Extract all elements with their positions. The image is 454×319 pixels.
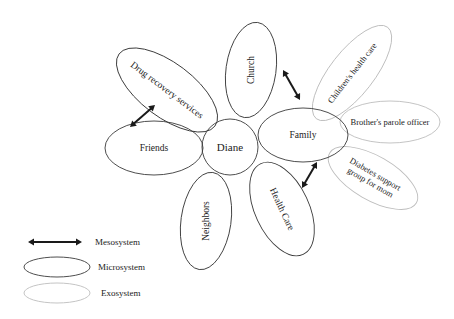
microsystem-label: Health Care [268,186,296,232]
microsystem-label: Church [246,56,256,84]
legend-microsystem: Microsystem [24,257,145,277]
exosystem-diabetes-support-group: Diabetes supportgroup for mom [319,134,428,222]
center-node: Diane [202,119,258,175]
microsystem-label: Friends [140,143,169,153]
mesosystem-arrow-church-to-family [283,70,300,100]
microsystem-church: Church [220,19,283,121]
legend-arrow-shape [28,239,82,246]
microsystem-neighbors: Neighbors [174,169,237,273]
microsystem-label: Drug recovery services [129,59,206,120]
exosystem-childrens-health-care: Children's health care [299,14,405,132]
mesosystem-arrow-family-to-health-care [302,162,317,188]
legend-mesosystem-label: Mesosystem [95,237,140,247]
exosystem-brothers-parole-officer: Brother's parole officer [340,101,440,143]
center-label: Diane [217,141,243,153]
legend-microsystem-label: Microsystem [98,262,145,272]
microsystem-friends: Friends [105,121,203,175]
double-arrow-icon [28,239,82,246]
exosystem-layer: Children's health careBrother's parole o… [299,14,440,222]
microsystem-ellipse-icon [24,257,90,277]
legend-exosystem: Exosystem [24,283,141,303]
exosystem-label: Brother's parole officer [351,117,430,127]
mesosystem-arrow-drug-recovery-to-friends [130,105,155,127]
microsystem-label: Family [290,130,317,140]
ecological-systems-diagram: Children's health careBrother's parole o… [0,0,454,319]
exosystem-label: Children's health care [325,41,378,105]
legend-mesosystem: Mesosystem [28,237,140,247]
microsystem-family: Family [258,108,348,162]
microsystem-drug-recovery-services: Drug recovery services [103,32,231,147]
exosystem-label: Diabetes supportgroup for mom [343,155,403,201]
microsystem-label: Neighbors [201,201,211,241]
exosystem-ellipse-icon [24,283,90,303]
legend: Mesosystem Microsystem Exosystem [24,237,145,303]
legend-exosystem-label: Exosystem [101,288,141,298]
